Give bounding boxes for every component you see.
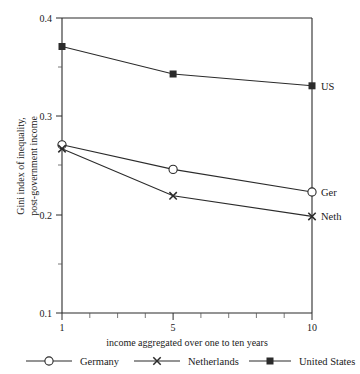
y-tick-label-0.2: 0.2 bbox=[40, 210, 53, 221]
series-line-netherlands bbox=[62, 149, 312, 217]
legend-label-germany: Germany bbox=[80, 356, 120, 367]
x-tick-label-10: 10 bbox=[307, 322, 317, 333]
chart-legend: Germany Netherlands United States bbox=[26, 356, 355, 367]
y-axis-title-line2: post-government income bbox=[28, 116, 39, 216]
y-tick-label-0.3: 0.3 bbox=[40, 111, 53, 122]
legend-item-germany: Germany bbox=[26, 356, 120, 367]
y-axis-title-line1: Gini index of inequality, bbox=[15, 117, 26, 215]
series-line-germany bbox=[62, 145, 312, 192]
x-tick-label-5: 5 bbox=[171, 322, 176, 333]
legend-item-netherlands: Netherlands bbox=[134, 356, 239, 367]
open-circle-icon bbox=[308, 188, 316, 196]
series-netherlands: Neth bbox=[58, 145, 342, 222]
filled-square-icon bbox=[267, 358, 274, 365]
open-circle-icon bbox=[169, 165, 177, 173]
y-tick-label-0.4: 0.4 bbox=[40, 13, 53, 24]
filled-square-icon bbox=[59, 43, 66, 50]
end-label-us: US bbox=[321, 81, 335, 92]
legend-label-netherlands: Netherlands bbox=[188, 356, 239, 367]
series-united-states: US bbox=[59, 43, 335, 92]
filled-square-icon bbox=[170, 71, 177, 78]
y-tick-label-0.1: 0.1 bbox=[40, 308, 53, 319]
series-line-united-states bbox=[62, 47, 312, 86]
x-axis-ticks bbox=[62, 313, 312, 320]
x-tick-label-1: 1 bbox=[60, 322, 65, 333]
x-axis-title: income aggregated over one to ten years bbox=[106, 337, 268, 348]
series-germany: Ger bbox=[58, 141, 337, 198]
plot-frame bbox=[62, 18, 312, 313]
legend-label-united-states: United States bbox=[299, 356, 355, 367]
end-label-neth: Neth bbox=[321, 211, 342, 222]
filled-square-icon bbox=[309, 82, 316, 89]
legend-item-united-states: United States bbox=[249, 356, 355, 367]
gini-inequality-line-chart: 0.4 0.3 0.2 0.1 1 5 10 income aggregated… bbox=[0, 0, 360, 374]
end-label-ger: Ger bbox=[321, 187, 337, 198]
chart-figure: 0.4 0.3 0.2 0.1 1 5 10 income aggregated… bbox=[0, 0, 360, 374]
y-axis-title: Gini index of inequality, post-governmen… bbox=[15, 116, 39, 216]
y-axis-ticks bbox=[56, 18, 62, 313]
open-circle-icon bbox=[45, 357, 53, 365]
